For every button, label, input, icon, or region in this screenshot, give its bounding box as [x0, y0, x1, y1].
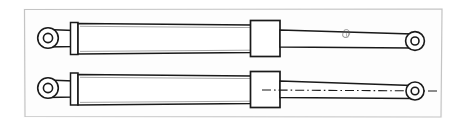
lower-left-eye-bore	[43, 83, 52, 92]
upper-end-cap-flange	[71, 23, 79, 55]
lower-right-eye-bore	[411, 87, 419, 95]
upper-gland-collar	[251, 21, 281, 57]
lower-barrel	[78, 75, 252, 106]
cylinder-assembly-drawing	[0, 0, 465, 127]
upper-left-eye-bore	[43, 33, 52, 42]
upper-right-eye-bore	[411, 37, 419, 45]
upper-barrel	[78, 24, 252, 55]
drawing-sheet: Hydraulic Cylinder Assembly side elevati…	[0, 0, 465, 127]
lower-end-cap-flange	[71, 73, 79, 105]
